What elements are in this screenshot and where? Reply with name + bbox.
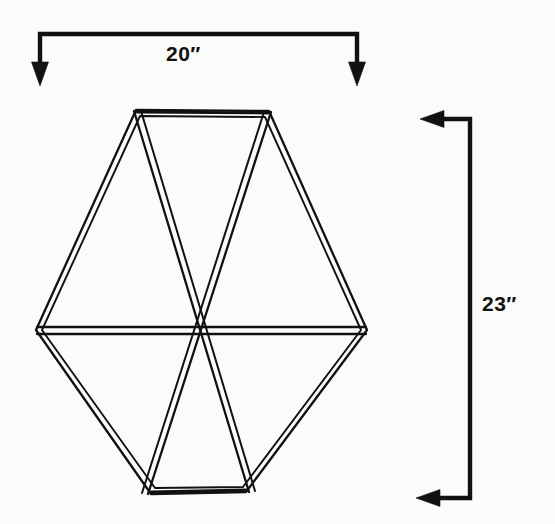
diagonal-tl-br-right-edge: [141, 111, 255, 491]
height-arrowhead-top-icon: [420, 111, 444, 128]
diagonal-tr-bl-left-edge: [142, 112, 264, 493]
width-arrowhead-left-icon: [32, 62, 49, 86]
hexagon-frame: [36, 110, 367, 494]
hexagon-inner-edge: [42, 116, 361, 488]
technical-drawing: [0, 0, 555, 524]
diagonal-tl-br-left-edge: [134, 111, 249, 492]
width-dimension-label: 20″: [166, 42, 201, 66]
width-arrowhead-right-icon: [349, 62, 366, 86]
hexagon-outer-edge: [36, 110, 367, 494]
diagonal-tr-bl-member: [142, 112, 271, 494]
figure-canvas: 20″ 23″: [0, 0, 555, 524]
height-arrowhead-bottom-icon: [416, 490, 440, 507]
height-dimension-bracket: [428, 119, 470, 498]
hexagon-bottom-edge-reinforcement: [151, 490, 246, 492]
height-dimension-line: [416, 111, 470, 507]
diagonal-tr-bl-right-edge: [148, 112, 271, 494]
hexagon-top-edge-reinforcement: [137, 112, 268, 113]
diagonal-tl-br-member: [134, 111, 255, 492]
height-dimension-label: 23″: [482, 292, 517, 316]
